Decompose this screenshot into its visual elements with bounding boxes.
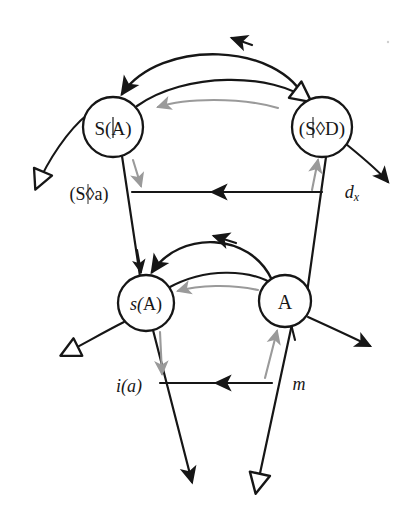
- edge-lower-right-terminal: [308, 317, 370, 346]
- edge-upper-left-terminal: [36, 114, 88, 188]
- upper-node-cluster: S(A) (S◊D): [36, 38, 388, 300]
- edge-top-inner-arc: [137, 80, 310, 106]
- edge-left-leg-lower: [153, 330, 192, 482]
- edge-top-outer-arc: [122, 54, 306, 101]
- diagram-canvas: S(A) (S◊D): [0, 0, 409, 523]
- edge-lower-gray-down: [160, 332, 162, 374]
- label-upper-left: (S◊a): [70, 184, 109, 205]
- diagram-figure: S(A) (S◊D): [0, 0, 409, 523]
- node-bottom-left-suffix: ): [156, 294, 162, 315]
- edge-upper-gray-down: [133, 160, 141, 186]
- node-bottom-left-core: A: [143, 294, 156, 314]
- node-top-right-suffix: D): [325, 118, 345, 140]
- node-bottom-right-label: A: [278, 291, 293, 313]
- node-top-left-suffix: ): [125, 118, 131, 140]
- node-bottom-right-core: A: [278, 291, 293, 313]
- node-top-left-prefix: S(: [95, 118, 112, 140]
- edge-top-outer-arc-midhead: [232, 38, 252, 45]
- edge-upper-right-terminal: [346, 144, 388, 182]
- scan-speck: [387, 41, 389, 43]
- edge-right-leg-lower: [256, 324, 292, 492]
- edge-upper-gray-up: [312, 160, 318, 190]
- edge-top-gray-arc: [158, 100, 278, 108]
- edge-right-leg-upper: [306, 157, 326, 300]
- node-bottom-left-prefix: s(: [130, 294, 144, 315]
- node-top-right-label: (S◊D): [299, 118, 345, 140]
- edge-bottom-gray-arc: [178, 286, 258, 291]
- edge-label-layer: (S◊a) dx i(a) m: [70, 182, 360, 397]
- node-bottom-left-label: s(A): [130, 294, 162, 315]
- edge-lower-gray-up: [265, 331, 277, 378]
- label-upper-right: dx: [345, 182, 360, 204]
- terminal-layer: [387, 41, 389, 43]
- label-lower-right: m: [293, 374, 306, 394]
- label-lower-left: i(a): [116, 376, 142, 397]
- edge-lower-left-terminal: [62, 322, 124, 355]
- lower-node-cluster: s(A) A: [62, 236, 370, 492]
